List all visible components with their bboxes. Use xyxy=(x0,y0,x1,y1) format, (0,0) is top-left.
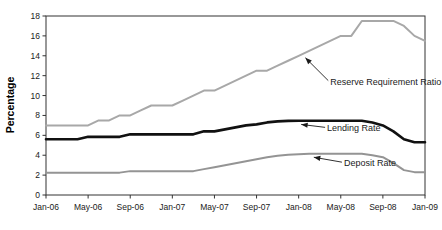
y-tick-label: 8 xyxy=(35,110,40,120)
x-tick-label: Sep-06 xyxy=(117,202,145,212)
y-tick-label: 14 xyxy=(31,51,41,61)
x-tick-label: Jan-07 xyxy=(159,202,185,212)
y-tick-label: 4 xyxy=(35,150,40,160)
y-tick-label: 10 xyxy=(31,91,41,101)
y-tick-label: 12 xyxy=(31,71,41,81)
x-tick-label: Sep-07 xyxy=(243,202,271,212)
line-chart: 024681012141618 Jan-06May-06Sep-06Jan-07… xyxy=(0,0,442,230)
annotation-label: Reserve Requirement Ratio xyxy=(330,77,441,87)
x-tick-label: Jan-09 xyxy=(412,202,438,212)
x-tick-label: May-07 xyxy=(200,202,229,212)
y-tick-label: 6 xyxy=(35,130,40,140)
y-tick-label: 18 xyxy=(31,11,41,21)
annotation-label: Lending Rate xyxy=(327,123,381,133)
annotation-label: Deposit Rate xyxy=(344,158,396,168)
y-tick-label: 2 xyxy=(35,170,40,180)
x-axis-ticks: Jan-06May-06Sep-06Jan-07May-07Sep-07Jan-… xyxy=(33,195,438,212)
x-tick-label: Jan-08 xyxy=(286,202,312,212)
y-tick-label: 0 xyxy=(35,190,40,200)
x-tick-label: May-06 xyxy=(74,202,103,212)
x-tick-label: May-08 xyxy=(327,202,356,212)
y-axis-title: Percentage xyxy=(4,77,16,134)
x-tick-label: Jan-06 xyxy=(33,202,59,212)
chart-container: 024681012141618 Jan-06May-06Sep-06Jan-07… xyxy=(0,0,442,230)
y-tick-label: 16 xyxy=(31,31,41,41)
y-axis-ticks: 024681012141618 xyxy=(31,11,46,200)
x-tick-label: Sep-08 xyxy=(369,202,397,212)
